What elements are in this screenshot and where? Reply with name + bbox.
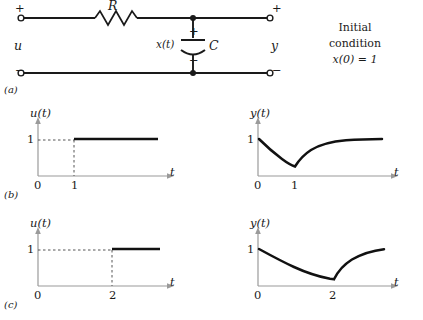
caption-a: (a)	[4, 85, 18, 95]
rc-circuit-step-response-figure: R C x(t) + − + − u + − y (a) Initial con…	[0, 0, 423, 320]
caption-c: (c)	[4, 300, 17, 310]
input-minus-sign: −	[15, 65, 25, 77]
panel-b-input-plot: u(t) t 1 0 1	[8, 108, 208, 188]
panel-b-input-xtick: 1	[71, 180, 78, 192]
panel-b-output-plot: y(t) t 1 0 1	[228, 108, 423, 188]
panel-c-input-svg	[8, 218, 208, 298]
resistor-label: R	[108, 0, 117, 13]
output-minus-sign: −	[272, 65, 282, 77]
output-voltage-label: y	[271, 40, 278, 53]
capacitor-plus-sign: +	[189, 26, 199, 38]
panel-b-output-ytick: 1	[247, 134, 254, 146]
panel-c-input-plot: u(t) t 1 0 2	[8, 218, 208, 298]
junction-dot-top	[190, 15, 196, 21]
panel-c-output-xtick: 2	[329, 290, 336, 302]
panel-c-input-xtick: 2	[109, 290, 116, 302]
panel-b-input-origin: 0	[34, 180, 41, 192]
panel-b-output-xtick: 1	[291, 180, 298, 192]
panel-b-output-origin: 0	[254, 180, 261, 192]
initial-condition-line3: x(0) = 1	[300, 52, 410, 68]
capacitor-label: C	[209, 40, 219, 53]
panel-b-output-xlabel: t	[394, 167, 399, 179]
panel-b-output-ylabel: y(t)	[250, 108, 270, 120]
circuit-diagram-panel: R C x(t) + − + − u + − y (a)	[0, 0, 290, 98]
panel-c-output-ylabel: y(t)	[250, 218, 270, 230]
panel-b-input-ytick: 1	[27, 134, 34, 146]
panel-c-input-origin: 0	[34, 290, 41, 302]
terminal-output-positive	[267, 15, 273, 21]
caption-b: (b)	[4, 190, 18, 200]
initial-condition-line1: Initial	[300, 20, 410, 36]
panel-c-input-ytick: 1	[27, 244, 34, 256]
panel-b-input-xlabel: t	[170, 167, 175, 179]
initial-condition-line2: condition	[300, 36, 410, 52]
output-plus-sign: +	[272, 3, 282, 15]
panel-c-output-ytick: 1	[247, 244, 254, 256]
panel-c-output-origin: 0	[254, 290, 261, 302]
panel-c-input-xlabel: t	[170, 277, 175, 289]
panel-c-output-xlabel: t	[394, 277, 399, 289]
resistor-symbol	[95, 11, 137, 25]
capacitor-voltage-label: x(t)	[156, 39, 174, 50]
input-voltage-label: u	[14, 40, 22, 53]
panel-c-input-ylabel: u(t)	[30, 218, 51, 230]
terminal-input-positive	[18, 15, 24, 21]
panel-b-input-ylabel: u(t)	[30, 108, 51, 120]
capacitor-minus-sign: −	[189, 55, 199, 67]
junction-dot-bottom	[190, 70, 196, 76]
panel-b-input-svg	[8, 108, 208, 188]
panel-c-output-plot: y(t) t 1 0 2	[228, 218, 423, 298]
response-curve	[259, 139, 382, 167]
response-curve	[259, 249, 384, 279]
circuit-svg	[0, 0, 290, 98]
input-plus-sign: +	[15, 3, 25, 15]
initial-condition-note: Initial condition x(0) = 1	[300, 20, 410, 68]
